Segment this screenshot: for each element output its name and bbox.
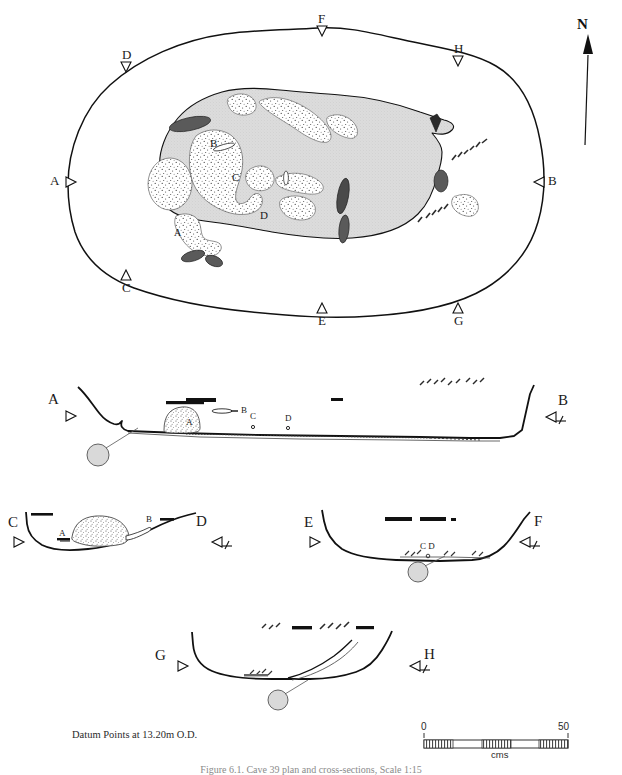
plan-marker-label-e: E	[318, 314, 326, 327]
scale-bar-min-label: 0	[421, 721, 427, 732]
scale-bar	[424, 733, 568, 748]
figure-caption: Figure 6.1. Cave 39 plan and cross-secti…	[0, 764, 622, 775]
section-cd-inner-label-b: B	[146, 515, 152, 524]
plan-feature-label-d: D	[260, 210, 268, 221]
plan-feature-label-b: B	[210, 138, 217, 149]
scale-bar-unit-label: cms	[491, 749, 508, 760]
section-gh-right-label: H	[424, 647, 435, 662]
drawing-canvas	[0, 0, 622, 775]
section-gh-left-label: G	[155, 648, 166, 663]
north-label: N	[577, 16, 588, 33]
section-ef-left-label: E	[304, 515, 313, 530]
section-marker-hatch	[222, 416, 566, 673]
figure-archaeological-plan: N A B C D E F G H B C D A A B A B C D C …	[0, 0, 622, 775]
plan-marker-label-a: A	[50, 174, 59, 187]
section-ab-inner-label-c: C	[250, 412, 256, 421]
section-ef-right-label: F	[534, 514, 542, 529]
section-cd-left-label: C	[8, 515, 18, 530]
section-c-d-drawing	[26, 512, 196, 550]
section-cd-right-label: D	[196, 514, 207, 529]
plan-marker-label-h: H	[454, 42, 463, 55]
scale-bar-max-label: 50	[558, 721, 569, 732]
north-arrow	[583, 34, 593, 145]
section-ef-inner-label-cd: C D	[420, 542, 435, 551]
plan-marker-label-g: G	[454, 314, 463, 327]
section-ab-inner-label-d: D	[285, 414, 292, 423]
plan-feature-label-c: C	[232, 172, 239, 183]
section-a-b-drawing	[78, 378, 534, 466]
plan-marker-label-f: F	[318, 12, 325, 25]
plan-feature-label-a: A	[174, 228, 181, 238]
section-g-h-drawing	[192, 622, 392, 710]
datum-points-note: Datum Points at 13.20m O.D.	[72, 729, 197, 740]
section-ab-inner-label-a: A	[186, 418, 193, 427]
plan-marker-label-c: C	[122, 281, 131, 294]
section-ab-left-label: A	[48, 392, 59, 407]
plan-marker-label-b: B	[548, 174, 557, 187]
section-ab-right-label: B	[558, 393, 568, 408]
section-cd-inner-label-a: A	[59, 529, 66, 538]
section-ab-inner-label-b: B	[241, 406, 247, 415]
plan-marker-label-d: D	[122, 48, 131, 61]
